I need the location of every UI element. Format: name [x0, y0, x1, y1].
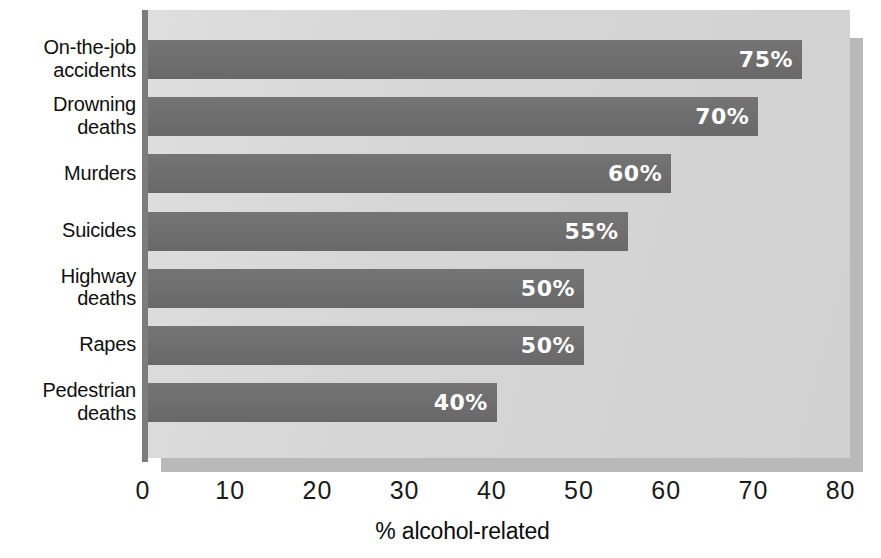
x-tick-label: 10	[200, 476, 260, 505]
x-axis-title: % alcohol-related	[0, 518, 881, 545]
x-axis-title-text: % alcohol-related	[375, 518, 549, 545]
bar-value-label: 50%	[148, 269, 584, 308]
bar-row: 70%	[148, 97, 758, 136]
bar-chart: On-the-job accidents Drowning deaths Mur…	[0, 0, 881, 558]
bar-row: 40%	[148, 383, 497, 422]
bar-row: 50%	[148, 269, 584, 308]
x-tick-label: 0	[113, 476, 173, 505]
x-tick-label: 20	[287, 476, 347, 505]
x-tick-label: 40	[462, 476, 522, 505]
bar-value-label: 75%	[148, 40, 802, 79]
bar-value-label: 40%	[148, 383, 497, 422]
bar-row: 55%	[148, 212, 628, 251]
x-tick-label: 50	[549, 476, 609, 505]
x-tick-label: 80	[811, 476, 871, 505]
bar-value-label: 50%	[148, 326, 584, 365]
x-tick-label: 70	[723, 476, 783, 505]
bar-value-label: 60%	[148, 154, 671, 193]
bar-value-label: 70%	[148, 97, 758, 136]
bars-layer: 75% 70% 60% 55% 50% 50% 40%	[0, 0, 881, 558]
x-tick-label: 30	[375, 476, 435, 505]
bar-row: 75%	[148, 40, 802, 79]
bar-value-label: 55%	[148, 212, 628, 251]
bar-row: 50%	[148, 326, 584, 365]
x-tick-label: 60	[636, 476, 696, 505]
bar-row: 60%	[148, 154, 671, 193]
